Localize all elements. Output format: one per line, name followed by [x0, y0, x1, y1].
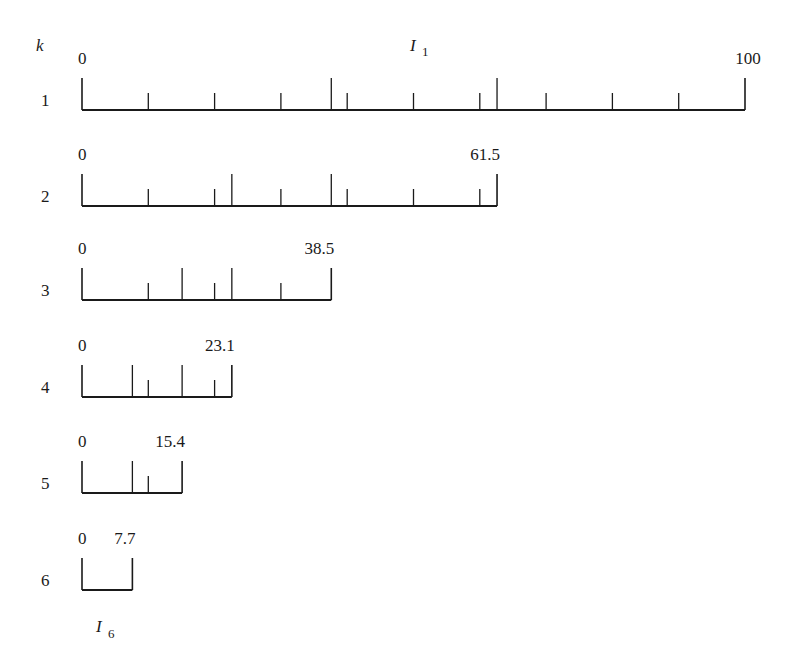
interval-row-k6: 607.7 [41, 529, 136, 590]
k-axis-label: k [36, 36, 44, 55]
interval-row-k4: 4023.1 [41, 336, 235, 397]
svg-text:I: I [95, 617, 103, 636]
interval-row-k1: 10100 [41, 49, 761, 110]
start-value-label: 0 [78, 145, 87, 164]
svg-text:I: I [409, 36, 417, 55]
end-value-label: 61.5 [470, 145, 500, 164]
end-value-label: 15.4 [155, 432, 185, 451]
start-value-label: 0 [78, 336, 87, 355]
interval-i1-label: I 1 [409, 36, 429, 59]
row-k-label: 1 [41, 91, 50, 110]
svg-text:6: 6 [108, 626, 115, 641]
row-k-label: 2 [41, 187, 50, 206]
interval-reduction-diagram: k I 1 101002061.53038.54023.15015.4607.7… [0, 0, 802, 665]
svg-text:1: 1 [422, 44, 429, 59]
start-value-label: 0 [78, 529, 87, 548]
interval-row-k5: 5015.4 [41, 432, 186, 493]
row-k-label: 5 [41, 474, 50, 493]
interval-row-k2: 2061.5 [41, 145, 500, 206]
interval-rows: 101002061.53038.54023.15015.4607.7 [41, 49, 761, 590]
start-value-label: 0 [78, 49, 87, 68]
interval-i6-label: I 6 [95, 617, 115, 641]
row-k-label: 4 [41, 378, 50, 397]
end-value-label: 7.7 [114, 529, 136, 548]
interval-row-k3: 3038.5 [41, 239, 334, 300]
start-value-label: 0 [78, 432, 87, 451]
row-k-label: 6 [41, 571, 50, 590]
end-value-label: 38.5 [305, 239, 335, 258]
end-value-label: 23.1 [205, 336, 235, 355]
start-value-label: 0 [78, 239, 87, 258]
row-k-label: 3 [41, 281, 50, 300]
end-value-label: 100 [735, 49, 761, 68]
